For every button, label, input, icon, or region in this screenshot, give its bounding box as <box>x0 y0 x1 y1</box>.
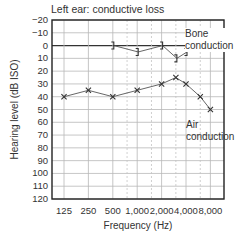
bone-label-line2: conduction <box>185 40 233 52</box>
air-label-line2: conduction <box>186 131 234 143</box>
air-label-line1: Air <box>186 119 234 131</box>
bone-label-line1: Bone <box>185 28 233 40</box>
air-x-marker <box>173 75 178 80</box>
air-conduction-label: Air conduction <box>186 119 234 143</box>
bone-conduction-label: Bone conduction <box>185 28 233 52</box>
